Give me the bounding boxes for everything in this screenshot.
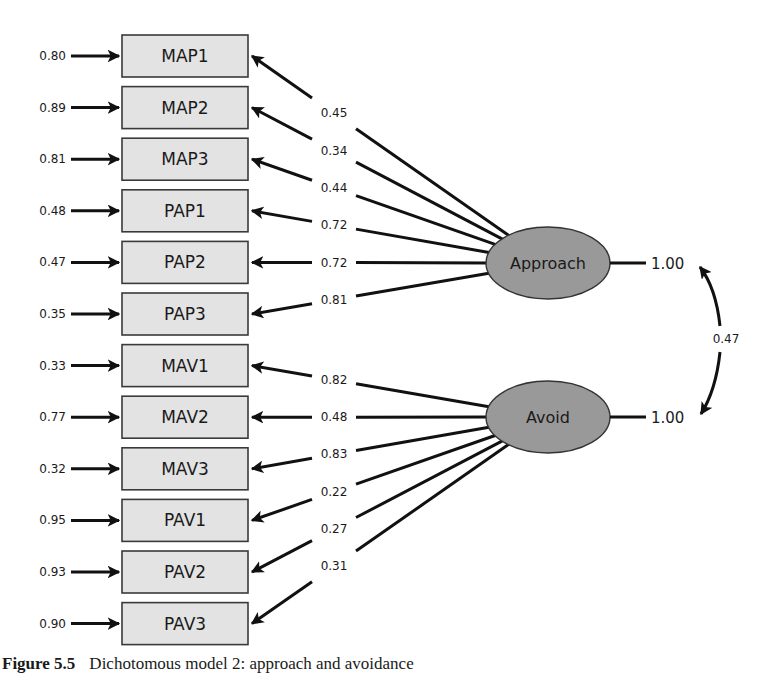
indicator-label: MAP3 <box>161 149 208 169</box>
loading-arrow <box>252 582 312 624</box>
indicator-label: PAP2 <box>164 252 206 272</box>
residual-label: 0.95 <box>39 513 66 527</box>
residual-label: 0.32 <box>39 462 66 476</box>
residual-label: 0.33 <box>39 359 66 373</box>
loading-arrow <box>252 499 312 520</box>
figure-label: Figure 5.5 <box>2 654 75 673</box>
loading-label: 0.27 <box>321 522 348 536</box>
residual-label: 0.93 <box>39 565 66 579</box>
indicator-box: PAP3 <box>122 293 248 335</box>
loading-arrow <box>252 458 312 469</box>
factor-variance-label: 1.00 <box>651 255 684 273</box>
loading-arrow <box>252 366 312 376</box>
loading-label: 0.45 <box>321 106 348 120</box>
indicator-label: MAV3 <box>161 459 209 479</box>
residual-label: 0.47 <box>39 255 66 269</box>
latent-factor: Avoid <box>486 381 610 453</box>
indicator-box: PAV1 <box>122 499 248 541</box>
loading-label: 0.72 <box>321 256 348 270</box>
indicator-box: PAV2 <box>122 551 248 593</box>
loading-path <box>356 440 503 517</box>
indicator-box: MAV2 <box>122 396 248 438</box>
loading-arrow <box>252 211 312 222</box>
indicator-box: MAP1 <box>122 35 248 77</box>
loading-arrow <box>252 159 312 180</box>
indicator-box: MAV1 <box>122 345 248 387</box>
indicator-label: MAP1 <box>161 46 208 66</box>
figure-caption: Figure 5.5Dichotomous model 2: approach … <box>2 654 414 674</box>
indicator-label: PAP1 <box>164 201 206 221</box>
indicator-label: PAV1 <box>164 510 206 530</box>
residual-label: 0.81 <box>39 152 66 166</box>
loading-label: 0.72 <box>321 218 348 232</box>
indicator-box: MAP3 <box>122 138 248 180</box>
indicator-label: PAP3 <box>164 304 206 324</box>
loading-path <box>356 196 497 245</box>
loading-arrow <box>252 56 312 98</box>
loading-path <box>356 384 490 407</box>
loading-path <box>356 229 490 253</box>
loading-path <box>356 273 490 296</box>
loading-arrow <box>252 108 312 140</box>
loading-label: 0.48 <box>321 410 348 424</box>
indicator-box: PAV3 <box>122 603 248 645</box>
residual-label: 0.48 <box>39 204 66 218</box>
factor-variance-label: 1.00 <box>651 409 684 427</box>
factor-label: Approach <box>510 254 586 273</box>
path-diagram: 0.800.890.810.480.470.350.330.770.320.95… <box>0 0 765 650</box>
indicator-box: MAV3 <box>122 448 248 490</box>
residual-label: 0.77 <box>39 410 66 424</box>
indicator-label: MAV2 <box>161 407 209 427</box>
correlation-arrow-down <box>701 352 720 414</box>
correlation-label: 0.47 <box>713 332 740 346</box>
loading-label: 0.83 <box>321 447 348 461</box>
loading-arrow <box>252 304 312 314</box>
loading-label: 0.82 <box>321 373 348 387</box>
factor-label: Avoid <box>526 408 570 427</box>
loading-path <box>356 427 490 451</box>
indicator-box: PAP1 <box>122 190 248 232</box>
correlation-arrow-up <box>700 267 720 326</box>
latent-factor: Approach <box>486 227 610 299</box>
residual-label: 0.80 <box>39 49 66 63</box>
loading-label: 0.44 <box>321 181 348 195</box>
loading-label: 0.31 <box>321 559 348 573</box>
loading-path <box>356 435 496 484</box>
loading-path <box>356 444 510 551</box>
loading-path <box>356 129 510 236</box>
indicator-label: PAV2 <box>164 562 206 582</box>
residual-label: 0.35 <box>39 307 66 321</box>
loading-arrow <box>252 541 312 572</box>
indicator-label: MAV1 <box>161 356 209 376</box>
loading-label: 0.22 <box>321 485 348 499</box>
figure-caption-text: Dichotomous model 2: approach and avoida… <box>89 654 413 673</box>
residual-label: 0.90 <box>39 617 66 631</box>
indicator-label: PAV3 <box>164 614 206 634</box>
indicator-label: MAP2 <box>161 98 208 118</box>
residual-label: 0.89 <box>39 101 66 115</box>
loading-label: 0.81 <box>321 293 348 307</box>
loading-label: 0.34 <box>321 144 348 158</box>
loading-path <box>356 162 503 239</box>
indicator-box: MAP2 <box>122 87 248 129</box>
indicator-box: PAP2 <box>122 241 248 283</box>
